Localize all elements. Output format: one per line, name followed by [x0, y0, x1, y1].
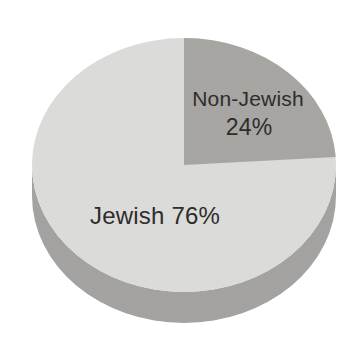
pie-chart: Non-Jewish 24% Jewish 76%	[0, 0, 338, 339]
pie-chart-canvas: Non-Jewish 24% Jewish 76%	[0, 0, 338, 339]
scan-texture-overlay	[32, 38, 336, 323]
non-jewish-slice-value: 24%	[226, 114, 273, 140]
non-jewish-slice-label: Non-Jewish	[192, 87, 304, 110]
jewish-slice-label: Jewish 76%	[90, 202, 220, 229]
